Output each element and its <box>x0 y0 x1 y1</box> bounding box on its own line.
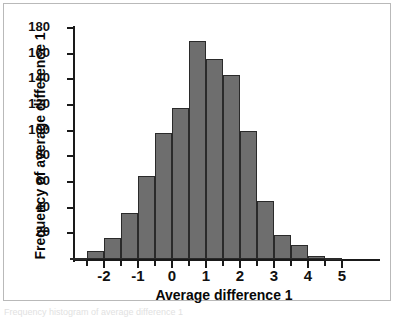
x-minor-tick <box>256 261 258 266</box>
histogram-bar <box>121 213 138 259</box>
y-tick-20 <box>67 232 74 234</box>
y-tick-100 <box>67 130 74 132</box>
x-minor-tick <box>222 261 224 266</box>
figure-frame: 20406080100120140160180 -2-1012345 Avera… <box>3 3 391 301</box>
x-tick-label-2: 2 <box>225 268 255 284</box>
x-tick-label-5: 5 <box>327 268 357 284</box>
histogram-bar <box>291 245 308 259</box>
histogram-bar <box>155 133 172 259</box>
y-tick-40 <box>67 207 74 209</box>
histogram-bar <box>257 201 274 259</box>
x-minor-tick <box>290 261 292 266</box>
histogram-bar <box>70 258 87 260</box>
x-minor-tick <box>120 261 122 266</box>
histogram-bar <box>240 131 257 259</box>
histogram-bar <box>308 256 325 259</box>
x-minor-tick <box>188 261 190 266</box>
histogram-bar <box>172 108 189 259</box>
x-axis-title: Average difference 1 <box>74 287 374 303</box>
histogram-bar <box>206 59 223 259</box>
histogram-bar <box>104 238 121 259</box>
y-tick-120 <box>67 104 74 106</box>
histogram-bar <box>223 75 240 259</box>
y-tick-180 <box>67 27 74 29</box>
histogram-bar <box>138 176 155 259</box>
y-tick-60 <box>67 181 74 183</box>
x-tick-label--1: -1 <box>123 268 153 284</box>
histogram-bar <box>189 41 206 259</box>
histogram-bar <box>325 258 342 260</box>
y-axis-title: Frequency of average difference 1 <box>32 26 48 266</box>
x-tick-label-1: 1 <box>191 268 221 284</box>
x-minor-tick <box>154 261 156 266</box>
x-tick-label-3: 3 <box>259 268 289 284</box>
y-tick-140 <box>67 78 74 80</box>
y-tick-160 <box>67 53 74 55</box>
histogram-bar <box>274 235 291 259</box>
y-axis-line <box>73 26 75 262</box>
x-minor-tick <box>324 261 326 266</box>
histogram-bar <box>87 251 104 259</box>
x-tick-label-0: 0 <box>157 268 187 284</box>
y-tick-80 <box>67 155 74 157</box>
x-tick-label--2: -2 <box>89 268 119 284</box>
x-minor-tick <box>86 261 88 266</box>
x-tick-label-4: 4 <box>293 268 323 284</box>
page-caption-sliver: Frequency histogram of average differenc… <box>4 306 304 318</box>
